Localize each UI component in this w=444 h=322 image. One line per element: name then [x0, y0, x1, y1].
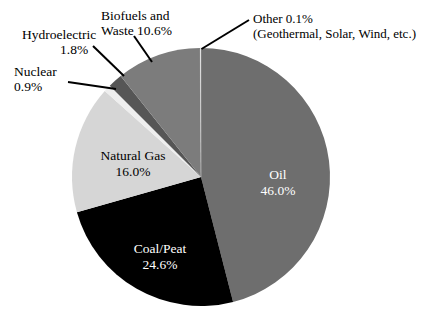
callout-hydroelectric-line2: 1.8%	[22, 42, 96, 57]
callout-other-line2: (Geothermal, Solar, Wind, etc.)	[253, 27, 416, 42]
leader-line-other	[202, 20, 250, 49]
callout-biofuels-line1: Biofuels and	[101, 8, 172, 23]
slice-coal-peat-value: 24.6%	[108, 257, 212, 273]
callout-nuclear-line2: 0.9%	[14, 79, 57, 94]
callout-biofuels-line2: Waste 10.6%	[101, 23, 172, 38]
callout-hydroelectric-line1: Hydroelectric	[22, 27, 96, 42]
slice-natural-gas-value: 16.0%	[78, 164, 188, 180]
leader-line-biofuels	[134, 36, 152, 62]
slice-label-natural-gas: Natural Gas 16.0%	[78, 148, 188, 179]
slice-label-oil: Oil 46.0%	[240, 167, 316, 198]
callout-label-other: Other 0.1% (Geothermal, Solar, Wind, etc…	[253, 12, 416, 41]
slice-natural-gas-name: Natural Gas	[78, 148, 188, 164]
leader-line-hydroelectric	[93, 46, 124, 76]
slice-coal-peat-name: Coal/Peat	[108, 241, 212, 257]
leader-line-nuclear	[68, 82, 116, 89]
callout-nuclear-line1: Nuclear	[14, 64, 57, 79]
callout-label-hydroelectric: Hydroelectric 1.8%	[22, 27, 96, 57]
pie-chart: Hydroelectric 1.8% Nuclear 0.9% Biofuels…	[0, 0, 444, 322]
slice-label-coal-peat: Coal/Peat 24.6%	[108, 241, 212, 272]
slice-oil-value: 46.0%	[240, 183, 316, 199]
callout-other-line1: Other 0.1%	[253, 12, 416, 27]
callout-label-biofuels-and-waste: Biofuels and Waste 10.6%	[101, 8, 172, 38]
slice-oil-name: Oil	[240, 167, 316, 183]
callout-label-nuclear: Nuclear 0.9%	[14, 64, 57, 94]
